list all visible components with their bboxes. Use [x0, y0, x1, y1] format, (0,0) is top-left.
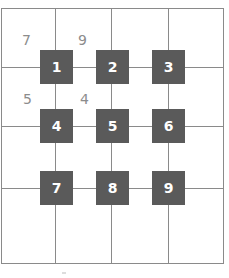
- node-6: 6: [152, 109, 185, 143]
- stray-mark: [62, 272, 66, 274]
- node-3: 3: [152, 50, 185, 84]
- node-7: 7: [40, 171, 73, 205]
- cell-label-mid-second: 4: [80, 91, 89, 107]
- node-8: 8: [96, 171, 129, 205]
- node-5: 5: [96, 109, 129, 143]
- cell-label-mid-left: 5: [23, 91, 32, 107]
- cell-label-top-second: 9: [78, 32, 87, 48]
- node-1: 1: [40, 50, 73, 84]
- node-4: 4: [40, 109, 73, 143]
- node-2: 2: [96, 50, 129, 84]
- cell-label-top-left: 7: [22, 32, 31, 48]
- node-9: 9: [152, 171, 185, 205]
